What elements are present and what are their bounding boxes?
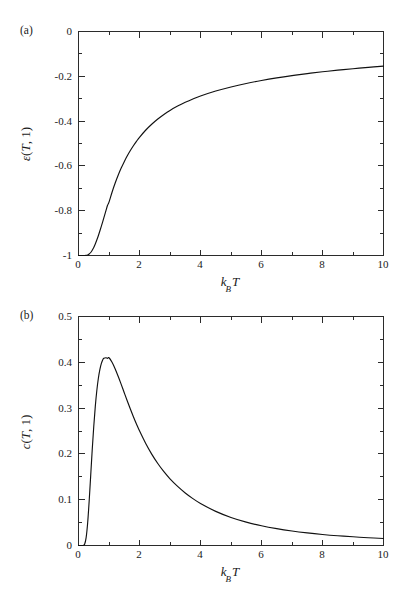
panel-b-ticks [79, 317, 384, 546]
panel-b-plot-area [0, 0, 407, 600]
panel-b: (b) 0.5 0.4 0.3 0.2 0.1 0 0 2 4 6 8 10 c… [0, 0, 407, 600]
two-panel-figure: (a) 0 -0.2 -0.4 -0.6 -0.8 -1 0 2 4 6 8 1… [0, 0, 407, 600]
panel-b-curve [79, 358, 384, 546]
